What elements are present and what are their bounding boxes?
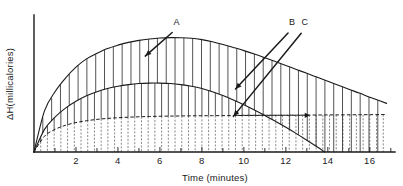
- x-tick-label: 8: [199, 155, 205, 166]
- x-tick-label: 12: [280, 155, 291, 166]
- annotations-layer: ABC: [145, 17, 310, 118]
- curve-label-b: B: [289, 17, 295, 27]
- tick-labels-layer: 246810121416: [73, 155, 375, 166]
- leader-line-c: [233, 33, 301, 116]
- x-tick-label: 14: [322, 155, 333, 166]
- curve-label-a: A: [174, 17, 180, 27]
- chart-canvas: 246810121416 ABC Time (minutes) ΔH(milli…: [0, 0, 403, 186]
- x-tick-label: 4: [115, 155, 121, 166]
- axes-layer: [34, 15, 395, 152]
- hatch-layer-b: [41, 83, 263, 142]
- chart-figure: 246810121416 ABC Time (minutes) ΔH(milli…: [0, 0, 403, 186]
- x-tick-label: 6: [157, 155, 163, 166]
- x-tick-label: 10: [238, 155, 249, 166]
- x-tick-label: 16: [364, 155, 375, 166]
- ticks-layer: [55, 147, 391, 152]
- y-axis-title: ΔH(millicalories): [4, 48, 15, 120]
- curve-label-c: C: [302, 17, 309, 27]
- x-tick-label: 2: [73, 155, 79, 166]
- x-axis-title: Time (minutes): [182, 172, 248, 183]
